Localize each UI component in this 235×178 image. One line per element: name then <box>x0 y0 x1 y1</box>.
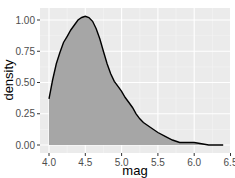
svg-text:6.0: 6.0 <box>187 157 201 168</box>
svg-text:4.5: 4.5 <box>78 157 92 168</box>
svg-text:5.5: 5.5 <box>151 157 165 168</box>
svg-text:0.50: 0.50 <box>16 77 36 88</box>
y-axis-ticks: 0.000.250.500.751.00 <box>16 15 40 151</box>
svg-text:1.00: 1.00 <box>16 15 36 26</box>
svg-text:4.0: 4.0 <box>42 157 56 168</box>
x-axis-label: mag <box>122 163 147 178</box>
svg-text:0.75: 0.75 <box>16 46 36 57</box>
svg-text:0.00: 0.00 <box>16 140 36 151</box>
y-axis-label: density <box>1 59 16 101</box>
density-chart: 4.04.55.05.56.06.5 0.000.250.500.751.00 … <box>0 0 235 178</box>
svg-text:0.25: 0.25 <box>16 108 36 119</box>
svg-text:6.5: 6.5 <box>224 157 235 168</box>
